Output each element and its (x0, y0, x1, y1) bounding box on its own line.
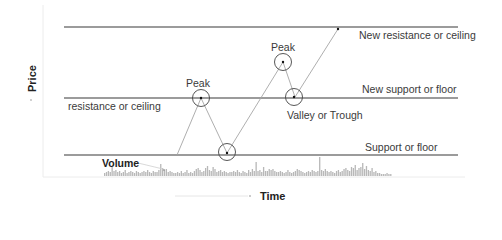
volume-bar (355, 165, 356, 176)
volume-bar (192, 173, 193, 176)
valley2-marker (286, 89, 303, 106)
support-label: Support or floor (365, 142, 437, 153)
volume-bar (216, 172, 217, 176)
volume-bar (338, 170, 339, 176)
volume-bar (263, 167, 264, 176)
volume-bar (274, 171, 275, 176)
volume-bar (194, 171, 195, 176)
new-support-label: New support or floor (362, 84, 457, 95)
volume-bar (312, 170, 313, 176)
volume-bar (255, 162, 256, 176)
volume-bar (241, 173, 242, 176)
volume-bar (188, 173, 189, 176)
volume-bar (171, 172, 172, 176)
y-axis-arrow-dot (30, 99, 32, 101)
volume-bar (285, 172, 286, 176)
volume-bar (267, 171, 268, 176)
volume-bar (143, 171, 144, 176)
volume-bar (246, 173, 247, 176)
volume-bar (383, 174, 384, 176)
volume-bar (284, 173, 285, 176)
volume-bar (190, 172, 191, 176)
volume-bar (214, 169, 215, 176)
price-path (177, 29, 338, 155)
volume-bar (224, 171, 225, 176)
valley-label: Valley or Trough (287, 110, 363, 121)
volume-bar (298, 170, 299, 176)
volume-bar (169, 171, 170, 176)
volume-bar (317, 171, 318, 176)
volume-bar (278, 172, 279, 176)
volume-bar (282, 172, 283, 176)
volume-bar (110, 172, 111, 176)
volume-bar (154, 172, 155, 176)
volume-bar (313, 171, 314, 176)
volume-bar (381, 174, 382, 176)
volume-bar (254, 171, 255, 176)
volume-bar (364, 169, 365, 176)
volume-bar (220, 170, 221, 176)
volume-bar (138, 172, 139, 176)
volume-pointer-line (138, 163, 163, 169)
volume-bar (149, 172, 150, 176)
volume-bar (390, 174, 391, 176)
volume-bar (173, 173, 174, 176)
volume-bar (198, 168, 199, 176)
volume-bar (156, 172, 157, 176)
volume-bar (212, 167, 213, 176)
volume-bar (276, 172, 277, 176)
volume-bar (218, 171, 219, 176)
volume-bar (222, 172, 223, 176)
volume-bar (201, 172, 202, 176)
volume-bar (166, 169, 167, 176)
volume-bar (340, 172, 341, 176)
volume-bar (175, 173, 176, 176)
volume-bar (140, 173, 141, 176)
volume-bar (244, 172, 245, 176)
volume-bar (330, 171, 331, 176)
volume-bar (270, 170, 271, 176)
volume-bar (379, 173, 380, 176)
volume-bar (269, 169, 270, 176)
volume-bar (136, 171, 137, 176)
volume-pointer-dot (163, 169, 165, 171)
volume-bar (325, 169, 326, 176)
volume-bar (115, 170, 116, 176)
volume-bar (106, 172, 107, 176)
volume-bar (342, 171, 343, 176)
volume-label: Volume (102, 158, 139, 169)
volume-bar (304, 173, 305, 176)
volume-bar (386, 173, 387, 176)
volume-bar (237, 170, 238, 176)
volume-bar (366, 166, 367, 176)
volume-bar (177, 172, 178, 176)
volume-bar (239, 172, 240, 176)
volume-bar (336, 171, 337, 176)
volume-bar (289, 172, 290, 176)
volume-bar (345, 168, 346, 176)
x-axis-arrow-dot (249, 195, 251, 197)
volume-bar (308, 171, 309, 176)
volume-bar (388, 174, 389, 176)
volume-bar (321, 170, 322, 176)
volume-bar (332, 172, 333, 176)
volume-bar (183, 173, 184, 176)
volume-bar (272, 169, 273, 176)
volume-bar (153, 171, 154, 176)
volume-bar (113, 171, 114, 176)
volume-bar (368, 170, 369, 176)
volume-bar (327, 171, 328, 176)
volume-bar (158, 170, 159, 176)
volume-bar (302, 172, 303, 176)
volume-bar (356, 170, 357, 176)
volume-bar (231, 172, 232, 176)
volume-bar (371, 168, 372, 176)
volume-bar (250, 172, 251, 176)
volume-bar (319, 157, 320, 176)
volume-bar (328, 172, 329, 176)
volume-bar (130, 171, 131, 176)
volume-bar (117, 172, 118, 176)
volume-bar (287, 170, 288, 176)
volume-bar (125, 170, 126, 176)
volume-bar (265, 171, 266, 176)
